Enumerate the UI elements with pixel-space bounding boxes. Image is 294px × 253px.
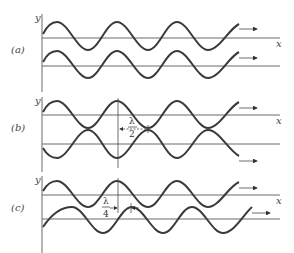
wave-c-top bbox=[43, 181, 239, 207]
y-axis-label: y bbox=[34, 12, 41, 23]
panel-label-b: (b) bbox=[11, 122, 25, 133]
x-axis-label: x bbox=[276, 195, 282, 206]
x-axis-label: x bbox=[276, 115, 282, 126]
panel-b: y (b) x λ 2 bbox=[11, 95, 282, 172]
wave-a-top bbox=[43, 22, 239, 50]
x-axis-label: x bbox=[276, 38, 282, 49]
y-axis-label: y bbox=[34, 174, 41, 185]
y-axis-label: y bbox=[34, 95, 41, 106]
wave-diagram: y (a) x y (b) x λ 2 y (c) x bbox=[0, 0, 294, 253]
lambda-numerator: λ bbox=[129, 116, 135, 126]
panel-label-c: (c) bbox=[11, 202, 25, 213]
wave-a-bottom bbox=[43, 51, 239, 78]
lambda-denominator: 4 bbox=[103, 209, 109, 219]
panel-label-a: (a) bbox=[11, 44, 25, 55]
lambda-denominator: 2 bbox=[129, 129, 135, 139]
panel-c: y (c) x λ 4 bbox=[11, 174, 282, 253]
lambda-numerator: λ bbox=[103, 196, 109, 206]
panel-a: y (a) x bbox=[11, 12, 282, 92]
wave-c-bottom bbox=[43, 207, 252, 233]
